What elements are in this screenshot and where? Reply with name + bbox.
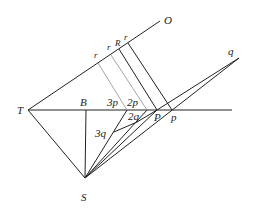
line-B-S: [85, 110, 86, 178]
label-3q: 3q: [94, 127, 107, 139]
label-3p: 3p: [106, 96, 119, 108]
line-T-S: [28, 110, 85, 178]
label-r1: r: [94, 50, 98, 60]
label-R: R: [114, 38, 121, 48]
ray-S-q: [85, 58, 239, 178]
label-r3: r: [124, 32, 128, 42]
label-S: S: [81, 191, 87, 203]
label-T: T: [17, 104, 24, 116]
label-r2: r: [107, 42, 111, 52]
label-O: O: [164, 14, 172, 26]
label-P: P: [153, 111, 161, 123]
label-p: p: [170, 111, 177, 123]
line-T-O: [28, 21, 160, 110]
line-3q-2q: [114, 122, 137, 132]
label-B: B: [80, 96, 87, 108]
geometry-diagram: O T B S q r r R r 3p 2p 2q 3q P p: [0, 0, 253, 208]
line-P-q: [157, 58, 239, 110]
label-2p: 2p: [127, 96, 139, 108]
label-q: q: [228, 45, 234, 57]
label-2q: 2q: [128, 110, 140, 122]
